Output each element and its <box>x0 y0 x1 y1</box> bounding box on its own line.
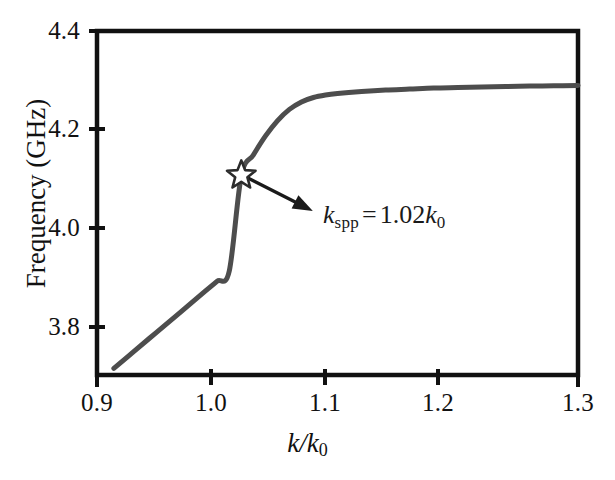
x-axis-label-subscript: 0 <box>319 440 328 460</box>
xtick-label-1-3: 1.3 <box>543 389 613 417</box>
annotation-symbol-k: k <box>323 200 335 229</box>
xtick-label-1-2: 1.2 <box>403 389 473 417</box>
annotation-unit-subscript-0: 0 <box>437 213 446 232</box>
x-axis-label-symbol: k/k <box>287 428 318 458</box>
xtick-label-1-1: 1.1 <box>290 389 360 417</box>
annotation-value: 1.02 <box>380 200 426 229</box>
annotation-equals: = <box>359 200 380 229</box>
chart-figure: 4.4 4.2 4.0 3.8 0.9 1.0 1.1 1.2 1.3 Freq… <box>0 0 615 480</box>
xtick-label-1-0: 1.0 <box>176 389 246 417</box>
y-axis-label: Frequency (GHz) <box>21 64 52 324</box>
ytick-label-4-4: 4.4 <box>18 17 80 45</box>
annotation-subscript-spp: spp <box>335 213 360 232</box>
k-spp-annotation-text: kspp=1.02k0 <box>323 200 446 233</box>
x-axis-label: k/k0 <box>0 428 615 461</box>
annotation-unit-symbol-k: k <box>425 200 437 229</box>
xtick-label-0-9: 0.9 <box>62 389 132 417</box>
